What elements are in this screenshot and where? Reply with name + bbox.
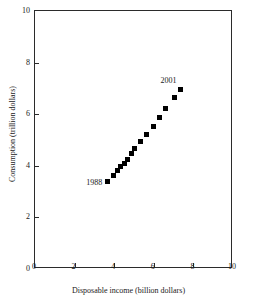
x-axis-tick-label: 10 xyxy=(220,262,244,271)
data-point-marker xyxy=(125,157,130,162)
data-point-marker xyxy=(172,95,177,100)
y-axis-tick-label: 2 xyxy=(14,212,30,221)
y-axis-tick xyxy=(34,217,39,218)
data-point-marker xyxy=(105,179,110,184)
plot-frame xyxy=(34,10,232,268)
x-axis-tick-label: 8 xyxy=(180,262,204,271)
data-point-marker xyxy=(129,151,134,156)
x-axis-tick-label: 6 xyxy=(141,262,165,271)
point-annotation: 2001 xyxy=(161,76,177,85)
data-point-marker xyxy=(151,124,156,129)
y-axis-tick xyxy=(34,63,39,64)
x-axis-title: Disposable income (billion dollars) xyxy=(0,286,257,296)
x-axis-tick-label: 4 xyxy=(101,262,125,271)
data-point-marker xyxy=(138,139,143,144)
data-point-marker xyxy=(144,132,149,137)
y-axis-tick-label: 0 xyxy=(14,264,30,273)
data-point-marker xyxy=(163,106,168,111)
data-point-marker xyxy=(132,146,137,151)
data-point-marker xyxy=(157,115,162,120)
data-point-marker xyxy=(178,87,183,92)
data-point-marker xyxy=(111,173,116,178)
x-axis-tick-label: 2 xyxy=(62,262,86,271)
y-axis-tick xyxy=(34,114,39,115)
plot-area xyxy=(35,11,231,267)
y-axis-tick xyxy=(34,166,39,167)
y-axis-title: Consumption (trillion dollars) xyxy=(8,59,18,209)
y-axis-tick-label: 10 xyxy=(14,6,30,15)
point-annotation: 1988 xyxy=(86,178,102,187)
scatter-chart: 02468100246810 19882001 Disposable incom… xyxy=(0,0,257,303)
